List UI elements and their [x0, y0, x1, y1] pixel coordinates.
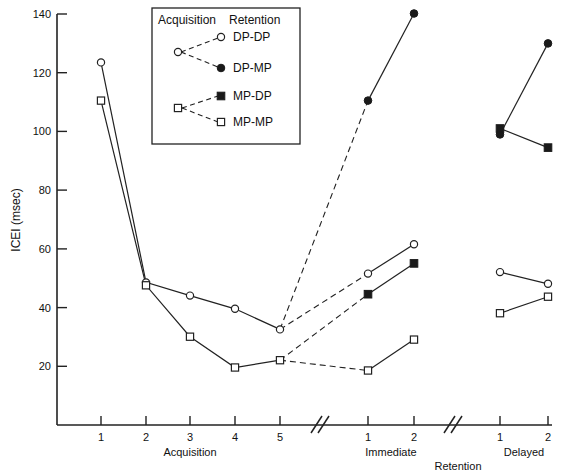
x-tick-label: 3: [187, 431, 193, 443]
legend-label-mp-dp: MP-DP: [233, 89, 272, 103]
y-axis-ticks: [57, 14, 67, 366]
series-line-mp-dp-immediate: [368, 263, 414, 294]
legend-label-dp-dp: DP-DP: [233, 30, 270, 44]
data-points-dp-dp: [364, 241, 551, 288]
x-tick-label: 1: [98, 431, 104, 443]
chart-svg: 140 120 100 80 60 40 20 ICEI (msec): [0, 0, 562, 473]
series-line-dp-mp-delayed: [500, 43, 548, 134]
series-line-dp-dp-immediate: [368, 244, 414, 273]
data-points-dp-mp: [364, 10, 552, 139]
x-tick-label: 2: [143, 431, 149, 443]
x-tick-label: 4: [232, 431, 238, 443]
y-tick-label: 60: [39, 243, 51, 255]
y-axis-title: ICEI (msec): [9, 188, 23, 251]
data-points-mp-dp: [364, 125, 552, 298]
x-section-label-delayed: Delayed: [504, 446, 544, 458]
transition-line-mp-dp: [280, 294, 368, 360]
y-tick-label: 20: [39, 360, 51, 372]
x-tick-label: 1: [497, 431, 503, 443]
series-line-mp-mp-immediate: [368, 340, 414, 371]
y-tick-label: 100: [33, 125, 51, 137]
transition-line-mp-mp: [280, 360, 368, 370]
series-line-mp-mp-delayed: [500, 297, 548, 314]
series-line-dp-mp-immediate: [368, 14, 414, 101]
y-tick-label: 40: [39, 302, 51, 314]
legend-label-mp-mp: MP-MP: [233, 115, 273, 129]
series-line-mp-dp-delayed: [500, 129, 548, 148]
legend-marker-dp-dp: [217, 33, 224, 40]
y-tick-label: 80: [39, 184, 51, 196]
series-line-dp-dp-delayed: [500, 272, 548, 284]
transition-line-dp-dp: [280, 274, 368, 330]
legend: Acquisition Retention DP-DP DP-MP MP-DP …: [152, 8, 300, 144]
legend-header-acquisition: Acquisition: [158, 13, 216, 27]
legend-header-retention: Retention: [229, 13, 280, 27]
x-axis-tick-labels: 1 2 3 4 5 1 2 1 2: [98, 431, 551, 443]
legend-marker-dp-mp: [217, 64, 225, 72]
chart-container: 140 120 100 80 60 40 20 ICEI (msec): [0, 0, 562, 473]
x-section-label-immediate: Immediate: [365, 446, 416, 458]
legend-label-dp-mp: DP-MP: [233, 61, 272, 75]
legend-marker-mp-dp: [217, 92, 225, 100]
y-axis-tick-labels: 140 120 100 80 60 40 20: [33, 8, 51, 372]
y-tick-label: 140: [33, 8, 51, 20]
x-tick-label: 2: [411, 431, 417, 443]
x-tick-label: 1: [365, 431, 371, 443]
legend-marker-mp-mp: [217, 118, 224, 125]
x-tick-label: 2: [545, 431, 551, 443]
x-tick-label: 5: [277, 431, 283, 443]
x-supergroup-label-retention: Retention: [434, 460, 481, 472]
y-tick-label: 120: [33, 67, 51, 79]
x-section-label-acquisition: Acquisition: [163, 446, 216, 458]
